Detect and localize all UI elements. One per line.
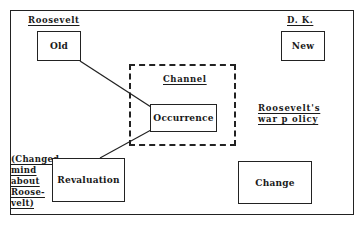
change-box-label: Change bbox=[255, 178, 294, 188]
roosevelt-label: Roosevelt bbox=[28, 16, 80, 25]
new-box: New bbox=[281, 31, 325, 61]
revaluation-box: Revaluation bbox=[52, 158, 125, 202]
war-policy-label: Roosevelt's war p olicy bbox=[258, 103, 320, 125]
war-policy-line-1: Roosevelt's bbox=[258, 103, 320, 114]
change-box: Change bbox=[238, 161, 312, 204]
new-box-label: New bbox=[292, 41, 314, 51]
channel-label: Channel bbox=[163, 75, 207, 84]
dk-label: D. K. bbox=[287, 16, 313, 25]
old-box: Old bbox=[37, 31, 81, 61]
occurrence-box: Occurrence bbox=[150, 104, 217, 132]
old-box-label: Old bbox=[50, 41, 68, 51]
revaluation-box-label: Revaluation bbox=[57, 175, 119, 185]
occurrence-box-label: Occurrence bbox=[153, 113, 213, 123]
war-policy-line-2: war p olicy bbox=[258, 114, 320, 125]
